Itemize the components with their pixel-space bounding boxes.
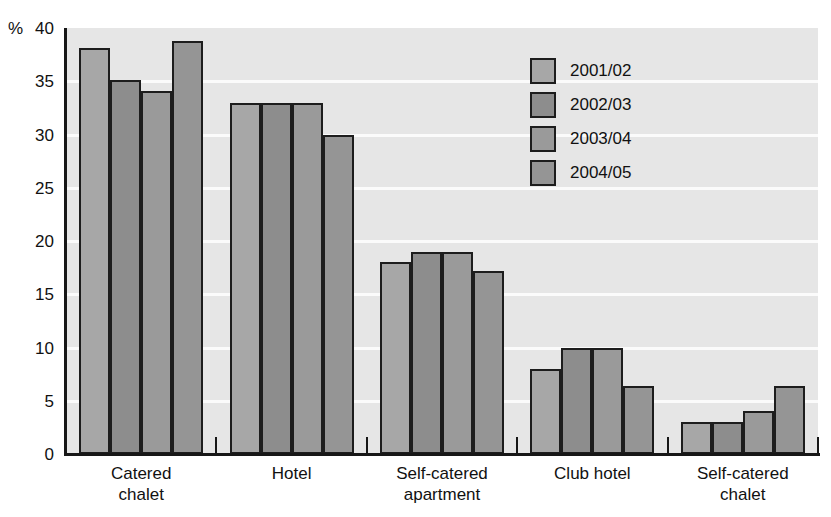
legend-label: 2001/02 — [570, 61, 631, 80]
bar — [623, 386, 654, 454]
bar — [380, 262, 411, 454]
y-tick-label: 40 — [12, 20, 54, 37]
x-category-label: Self-catered apartment — [367, 463, 517, 505]
bar — [110, 80, 141, 454]
x-category-label: Catered chalet — [66, 463, 216, 505]
y-tick-label: 30 — [12, 127, 54, 144]
x-axis-tick — [817, 437, 819, 454]
bar — [292, 103, 323, 454]
x-axis-tick — [65, 437, 67, 454]
bar — [530, 369, 561, 454]
bar-chart: . % 4035302520151050 Catered chaletHotel… — [0, 0, 831, 517]
legend-label: 2004/05 — [570, 163, 631, 182]
bar — [592, 348, 623, 455]
x-axis-line — [64, 453, 820, 456]
x-category-label: Club hotel — [517, 463, 667, 484]
x-axis-tick — [215, 437, 217, 454]
legend-swatch-icon — [530, 126, 556, 152]
bar — [442, 252, 473, 454]
x-axis-tick — [516, 437, 518, 454]
bar — [411, 252, 442, 454]
bar — [774, 386, 805, 454]
bar — [172, 41, 203, 454]
legend-label: 2003/04 — [570, 129, 631, 148]
bar — [230, 103, 261, 454]
bar — [261, 103, 292, 454]
legend-swatch-icon — [530, 92, 556, 118]
bar — [681, 422, 712, 454]
y-tick-label: 10 — [12, 340, 54, 357]
bar — [79, 48, 110, 454]
x-axis-tick — [366, 437, 368, 454]
bar — [473, 271, 504, 454]
y-tick-label: 15 — [12, 286, 54, 303]
bar — [141, 91, 172, 454]
y-tick-label: 20 — [12, 233, 54, 250]
chart-title-fragment: . — [360, 0, 480, 6]
y-axis-line — [64, 28, 67, 455]
legend-swatch-icon — [530, 160, 556, 186]
x-category-label: Hotel — [216, 463, 366, 484]
legend-swatch-icon — [530, 58, 556, 84]
legend-label: 2002/03 — [570, 95, 631, 114]
bar — [712, 422, 743, 454]
y-tick-label: 25 — [12, 180, 54, 197]
bar — [323, 135, 354, 455]
x-axis-tick — [667, 437, 669, 454]
y-tick-label: 0 — [12, 446, 54, 463]
x-category-label: Self-catered chalet — [668, 463, 818, 505]
bar — [561, 348, 592, 455]
plot-area — [66, 28, 818, 454]
bar — [743, 411, 774, 454]
y-tick-label: 35 — [12, 73, 54, 90]
y-tick-label: 5 — [12, 393, 54, 410]
